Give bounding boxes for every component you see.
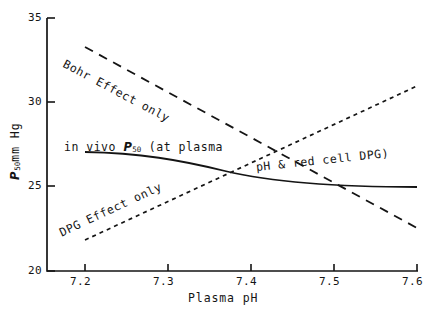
x-axis-title: Plasma pH — [188, 291, 258, 305]
annotation-in-vivo-subscript: 50 — [132, 145, 141, 154]
annotation-in-vivo-prefix: in vivo — [64, 140, 123, 154]
y-axis-ticks — [47, 18, 55, 271]
x-tick-label-7-6: 7.6 — [402, 275, 423, 288]
annotation-in-vivo-symbol: P — [123, 140, 132, 154]
annotation-in-vivo-left: in vivo P50 (at plasma — [64, 140, 223, 154]
x-tick-label-7-5: 7.5 — [319, 275, 340, 288]
y-axis-title-unit: mm Hg — [8, 123, 22, 162]
x-tick-label-7-3: 7.3 — [153, 275, 174, 288]
y-tick-label-20: 20 — [22, 264, 42, 277]
chart-figure: 35 30 25 20 7.2 7.3 7.4 7.5 7.6 Plasma p… — [0, 0, 427, 310]
y-tick-label-30: 30 — [22, 95, 42, 108]
y-tick-label-35: 35 — [22, 11, 42, 24]
y-axis-title-subscript: 50 — [13, 162, 22, 171]
y-axis-title: P50mm Hg — [8, 123, 22, 181]
x-tick-label-7-4: 7.4 — [236, 275, 257, 288]
x-axis-ticks — [85, 264, 417, 271]
y-axis-title-symbol: P — [8, 171, 22, 180]
annotation-in-vivo-suffix: (at plasma — [141, 140, 223, 154]
x-tick-label-7-2: 7.2 — [70, 275, 91, 288]
y-tick-label-25: 25 — [22, 179, 42, 192]
